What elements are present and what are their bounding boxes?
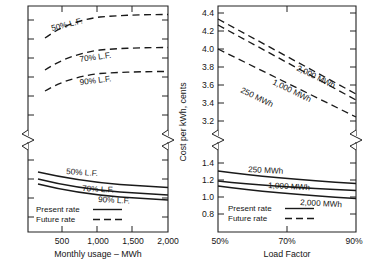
- left-panel: 50% L.F. 70% L.F. 90% L.F. 50% L.F. 70% …: [22, 6, 179, 259]
- chart-svg: 50% L.F. 70% L.F. 90% L.F. 50% L.F. 70% …: [0, 0, 374, 266]
- ytick-4-2: 4.2: [202, 26, 214, 36]
- left-panel-axis-break-right: [162, 130, 174, 150]
- left-panel-xtick-labels: 500 1,000 1,500 2,000: [55, 236, 179, 246]
- ytick-1-4: 1.4: [202, 158, 214, 168]
- right-panel-upper-frame: [218, 6, 356, 136]
- right-panel-axis-break-right: [350, 130, 362, 150]
- right-panel-lower-curve-labels: 250 MWh 1,000 MWh 2,000 MWh: [248, 165, 343, 209]
- figure-container: 50% L.F. 70% L.F. 90% L.F. 50% L.F. 70% …: [0, 0, 374, 266]
- ytick-1-2: 1.2: [202, 175, 214, 185]
- curve-label-70lf-lower: 70% L.F.: [82, 184, 114, 195]
- ytick-1-0: 1.0: [202, 192, 214, 202]
- right-panel-upper-ytick-labels: 4.4 4.2 4.0 3.8 3.6 3.4 3.2: [202, 8, 214, 126]
- curve-label-2000mwh-lower: 2,000 MWh: [300, 198, 343, 209]
- right-panel-upper-curve-labels: 250 MWh 1,000 MWh 2,000 MWh: [239, 64, 337, 110]
- right-panel-upper-curves: [218, 19, 356, 117]
- curve-label-1000mwh-lower: 1,000 MWh: [268, 181, 311, 192]
- curve-label-90lf-lower: 90% L.F.: [98, 195, 130, 206]
- right-panel-upper-yticks: [218, 13, 356, 121]
- xtick-1000: 1,000: [87, 236, 109, 246]
- yaxis-label: Cost per kWh, cents: [178, 82, 188, 162]
- ytick-0-8: 0.8: [202, 209, 214, 219]
- legend-future-label-right: Future rate: [228, 214, 268, 223]
- right-panel-lower-ytick-labels: 1.4 1.2 1.0 0.8: [202, 158, 214, 219]
- legend-present-label-left: Present rate: [36, 205, 80, 214]
- ytick-3-4: 3.4: [202, 98, 214, 108]
- right-panel-axis-break-left: [212, 130, 224, 150]
- left-panel-legend: Present rate Future rate: [36, 205, 122, 224]
- curve-label-50lf-lower: 50% L.F.: [66, 167, 98, 178]
- left-panel-axis-break-left: [22, 130, 34, 150]
- xtick-500: 500: [55, 236, 70, 246]
- left-panel-upper-frame: [28, 6, 168, 136]
- xtick-2000: 2,000: [157, 236, 179, 246]
- xtick-90pct: 90%: [345, 236, 363, 246]
- legend-present-label-right: Present rate: [228, 204, 272, 213]
- curve-label-1000mwh-upper: 1,000 MWh: [271, 78, 313, 105]
- ytick-4-0: 4.0: [202, 44, 214, 54]
- legend-future-label-left: Future rate: [36, 215, 76, 224]
- xtick-70pct: 70%: [278, 236, 296, 246]
- curve-label-2000mwh-upper: 2,000 MWh: [295, 64, 337, 91]
- ytick-3-8: 3.8: [202, 62, 214, 72]
- ytick-4-4: 4.4: [202, 8, 214, 18]
- right-panel-xaxis-label: Load Factor: [264, 249, 311, 259]
- curve-label-70lf-upper: 70% L.F.: [79, 51, 112, 64]
- ytick-3-6: 3.6: [202, 80, 214, 90]
- right-panel-xtick-labels: 50% 70% 90%: [211, 236, 363, 246]
- curve-label-90lf-upper: 90% L.F.: [79, 74, 112, 87]
- left-panel-xaxis-label: Monthly usage – MWh: [54, 249, 142, 259]
- xtick-1500: 1,500: [122, 236, 144, 246]
- curve-label-250mwh-lower: 250 MWh: [248, 165, 284, 176]
- right-panel: 4.4 4.2 4.0 3.8 3.6 3.4 3.2 1.4 1.2 1.0 …: [202, 6, 363, 259]
- xtick-50pct: 50%: [211, 236, 229, 246]
- curve-label-250mwh-upper: 250 MWh: [239, 86, 275, 110]
- curve-label-50lf-upper: 50% L.F.: [50, 17, 83, 33]
- ytick-3-2: 3.2: [202, 116, 214, 126]
